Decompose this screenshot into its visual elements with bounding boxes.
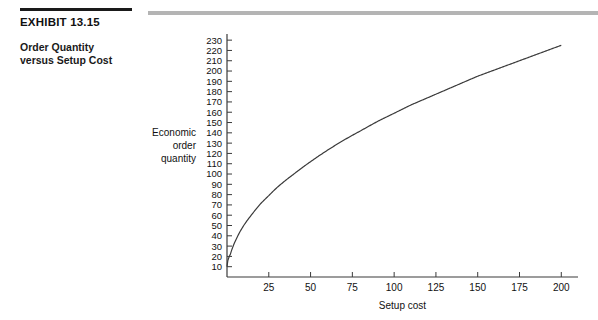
svg-text:110: 110 (207, 158, 222, 169)
svg-text:order: order (173, 140, 197, 151)
y-axis-ticks (227, 40, 232, 267)
svg-text:50: 50 (211, 220, 222, 231)
svg-text:150: 150 (469, 282, 486, 293)
svg-text:80: 80 (211, 189, 222, 200)
svg-text:150: 150 (206, 117, 222, 128)
svg-text:170: 170 (206, 96, 222, 107)
svg-text:190: 190 (206, 76, 222, 87)
svg-text:30: 30 (211, 241, 222, 252)
y-axis-title: Economicorderquantity (152, 127, 197, 164)
svg-text:125: 125 (428, 282, 445, 293)
eoq-setup-cost-chart: 1020304050607080901001101201301401501601… (0, 0, 598, 320)
chart-area: 1020304050607080901001101201301401501601… (0, 0, 598, 320)
data-curve (227, 45, 561, 266)
svg-text:10: 10 (211, 261, 222, 272)
x-axis-tick-labels: 255075100125150175200 (263, 282, 570, 293)
svg-text:100: 100 (206, 168, 222, 179)
y-axis-tick-labels: 1020304050607080901001101201301401501601… (206, 35, 222, 273)
svg-text:220: 220 (206, 45, 222, 56)
svg-text:100: 100 (386, 282, 403, 293)
svg-text:175: 175 (511, 282, 528, 293)
svg-text:Economic: Economic (152, 127, 196, 138)
svg-text:40: 40 (211, 230, 222, 241)
svg-text:60: 60 (211, 210, 222, 221)
svg-text:160: 160 (206, 107, 222, 118)
svg-text:25: 25 (263, 282, 275, 293)
svg-text:210: 210 (206, 55, 222, 66)
x-axis-ticks (269, 272, 562, 277)
svg-text:20: 20 (211, 251, 222, 262)
svg-text:90: 90 (211, 179, 222, 190)
svg-text:230: 230 (206, 35, 222, 46)
svg-text:50: 50 (305, 282, 317, 293)
svg-text:200: 200 (206, 65, 222, 76)
svg-text:130: 130 (206, 138, 222, 149)
svg-text:quantity: quantity (161, 153, 196, 164)
svg-text:70: 70 (211, 199, 222, 210)
svg-text:200: 200 (553, 282, 570, 293)
svg-text:180: 180 (206, 86, 222, 97)
svg-text:75: 75 (347, 282, 359, 293)
svg-text:120: 120 (206, 148, 222, 159)
x-axis-title: Setup cost (379, 300, 426, 311)
svg-text:140: 140 (206, 127, 222, 138)
